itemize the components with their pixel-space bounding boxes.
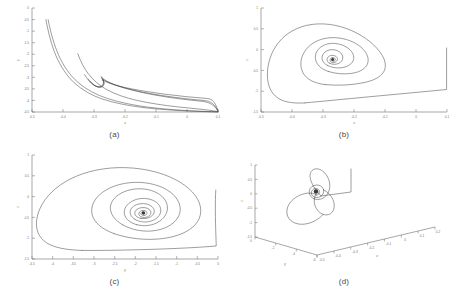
trajectory-1 — [46, 20, 218, 112]
ticklabel: -2 — [134, 262, 137, 266]
ticklabel: 0 — [256, 48, 258, 52]
panel-c-curves — [36, 168, 216, 251]
panel-b-curves — [267, 24, 446, 103]
fixed-point — [142, 211, 145, 214]
ticklabel: -0.3 — [320, 115, 326, 119]
ticklabel: -6 — [313, 258, 316, 262]
panel-d: 1 0.5 0 -0.5 -1 -1.5 0 -2 -4 -6 -0.5 -0.… — [229, 147, 459, 295]
ticklabel: 0.5 — [25, 174, 30, 178]
ticklabel: -0.4 — [60, 115, 66, 119]
ticklabel: -1 — [26, 29, 29, 33]
ticklabel: 0 — [217, 262, 219, 266]
ticklabel: -0.1 — [153, 115, 159, 119]
ticklabel: -2.5 — [112, 262, 118, 266]
ticklabel: -0.2 — [369, 246, 375, 250]
panel-c-caption: (c) — [0, 277, 229, 286]
panel-d-x-ticks — [317, 227, 435, 258]
panel-a-y-ticklabels: 0 -0.5 -1 -1.5 -2 -2.5 -3 -3.5 -4 -4.5 — [24, 6, 30, 114]
ticklabel: -1 — [249, 221, 252, 225]
panel-b-axes — [261, 8, 447, 112]
panel-b-y-ticks — [261, 8, 264, 112]
ticklabel: -0.2 — [122, 115, 128, 119]
trajectory-4-oscillatory — [85, 75, 218, 111]
panel-a-y-ticks — [32, 8, 35, 112]
panel-b-y-ticklabels: 1 0.5 0 -0.5 -1 -1.5 — [253, 6, 259, 114]
panel-c-plot: 1 0.5 0 -0.5 -1 -1.5 -4.5 -4 -3.5 -3 -2.… — [0, 147, 229, 277]
ticklabel: 0 — [27, 6, 29, 10]
ticklabel: -0.5 — [319, 258, 325, 262]
panel-a-ylabel: y — [16, 59, 20, 62]
ticklabel: 0.1 — [420, 234, 425, 238]
ticklabel: -0.5 — [29, 115, 35, 119]
ticklabel: -0.3 — [91, 115, 97, 119]
ticklabel: 0.5 — [254, 27, 259, 31]
ticklabel: -2 — [26, 52, 29, 56]
panel-b-caption: (b) — [229, 130, 459, 139]
panel-d-x-ticklabels: -0.5 -0.4 -0.3 -0.2 -0.1 0 0.1 0.2 — [319, 230, 440, 262]
panel-a-xlabel: x — [123, 121, 126, 125]
spiral-turn-3 — [315, 43, 353, 71]
panel-a-axes — [32, 8, 218, 112]
panel-b-plot: 1 0.5 0 -0.5 -1 -1.5 -0.5 -0.4 -0.3 -0.2… — [229, 0, 459, 130]
panel-d-z-ticks — [255, 165, 258, 237]
ticklabel: -0.5 — [253, 69, 259, 73]
ticklabel: 1 — [27, 153, 29, 157]
ticklabel: -4.5 — [24, 110, 30, 114]
panel-c: 1 0.5 0 -0.5 -1 -1.5 -4.5 -4 -3.5 -3 -2.… — [0, 147, 229, 295]
panel-c-x-ticklabels: -4.5 -4 -3.5 -3 -2.5 -2 -1.5 -1 -0.5 0 — [29, 262, 219, 266]
panel-b-ylabel: z — [245, 59, 249, 62]
panel-b: 1 0.5 0 -0.5 -1 -1.5 -0.5 -0.4 -0.3 -0.2… — [229, 0, 459, 147]
ticklabel: -0.5 — [24, 216, 30, 220]
panel-d-xlabel: x — [375, 254, 378, 258]
ticklabel: -4 — [51, 262, 54, 266]
spiral-turn-3 — [110, 189, 167, 226]
panel-d-zlabel: z — [240, 200, 244, 203]
panel-c-ylabel: z — [16, 206, 20, 209]
ticklabel: -4 — [26, 99, 29, 103]
spiral-turn-4 — [124, 198, 161, 224]
panel-d-axes — [255, 165, 435, 258]
ticklabel: 0 — [250, 192, 252, 196]
ticklabel: -1.5 — [24, 257, 30, 261]
ticklabel: -0.2 — [351, 115, 357, 119]
trajectory-3 — [78, 54, 218, 112]
panel-b-x-ticks — [261, 109, 447, 112]
ticklabel: -3 — [26, 76, 29, 80]
panel-d-ylabel: y — [283, 262, 286, 266]
orbit-upper-lobe — [310, 169, 330, 200]
entry-segment — [305, 48, 447, 103]
panel-d-z-ticklabels: 1 0.5 0 -0.5 -1 -1.5 — [247, 163, 253, 239]
ticklabel: 0.1 — [216, 115, 221, 119]
ticklabel: -0.1 — [386, 242, 392, 246]
ticklabel: 0.2 — [436, 230, 441, 234]
ticklabel: 0 — [415, 115, 417, 119]
panel-c-x-ticks — [32, 256, 218, 259]
ticklabel: -2 — [272, 246, 275, 250]
ticklabel: -3.5 — [24, 87, 30, 91]
ticklabel: 0 — [27, 195, 29, 199]
panel-b-x-ticklabels: -0.5 -0.4 -0.3 -0.2 -0.1 0 0.1 — [258, 115, 449, 119]
figure-container: 0 -0.5 -1 -1.5 -2 -2.5 -3 -3.5 -4 -4.5 -… — [0, 0, 459, 295]
panel-a-x-ticklabels: -0.5 -0.4 -0.3 -0.2 -0.1 0 0.1 — [29, 115, 220, 119]
ticklabel: 0.5 — [248, 178, 253, 182]
panel-a-curves — [46, 20, 218, 112]
ticklabel: -4.5 — [29, 262, 35, 266]
outer-loop — [36, 168, 200, 251]
ticklabel: -0.1 — [382, 115, 388, 119]
panel-b-xlabel: x — [352, 121, 355, 125]
ticklabel: -1.5 — [153, 262, 159, 266]
panel-d-curves — [287, 169, 351, 224]
spiral-turn-2 — [92, 182, 181, 233]
panel-c-y-ticklabels: 1 0.5 0 -0.5 -1 -1.5 — [24, 153, 30, 261]
ticklabel: -0.5 — [247, 206, 253, 210]
ticklabel: -1.5 — [24, 41, 30, 45]
ticklabel: -0.4 — [289, 115, 295, 119]
ticklabel: 0.1 — [445, 115, 450, 119]
panel-c-y-ticks — [32, 155, 35, 259]
ticklabel: -4 — [292, 252, 295, 256]
ticklabel: 0 — [250, 239, 252, 243]
ticklabel: -0.4 — [335, 254, 341, 258]
ticklabel: -0.5 — [24, 18, 30, 22]
ticklabel: -0.3 — [352, 250, 358, 254]
panel-c-axes — [32, 155, 218, 259]
